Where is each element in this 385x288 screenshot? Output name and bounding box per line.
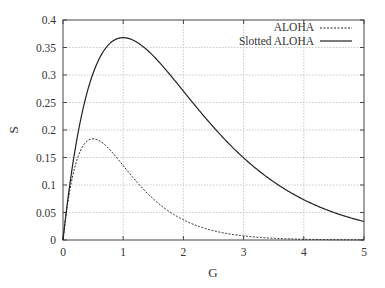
series-line-slotted-aloha (63, 38, 364, 240)
y-tick-label: 0.25 (36, 97, 56, 109)
y-tick-label: 0.05 (36, 207, 56, 219)
y-tick-label: 0.1 (42, 179, 57, 191)
x-tick-label: 1 (120, 246, 126, 258)
x-tick-label: 4 (301, 246, 307, 258)
x-axis-label: G (208, 265, 217, 280)
legend-label-slotted-aloha: Slotted ALOHA (239, 35, 315, 47)
y-tick-label: 0.35 (36, 42, 56, 54)
x-tick-label: 0 (60, 246, 66, 258)
x-tick-label: 3 (241, 246, 247, 258)
x-tick-label: 2 (181, 246, 187, 258)
y-tick-label: 0.15 (36, 152, 56, 164)
chart: 00.050.10.150.20.250.30.350.4 012345 G S… (0, 0, 385, 288)
y-tick-label: 0.4 (42, 14, 57, 26)
series-curves (63, 38, 364, 240)
x-axis-ticks: 012345 (60, 20, 367, 258)
x-tick-label: 5 (361, 246, 367, 258)
y-tick-label: 0.2 (42, 124, 57, 136)
y-axis-label: S (6, 126, 21, 133)
y-tick-label: 0.3 (42, 69, 57, 81)
legend-label-aloha: ALOHA (274, 21, 315, 33)
y-tick-label: 0 (50, 234, 56, 246)
legend: ALOHA Slotted ALOHA (239, 18, 352, 47)
series-line-aloha (63, 139, 364, 240)
